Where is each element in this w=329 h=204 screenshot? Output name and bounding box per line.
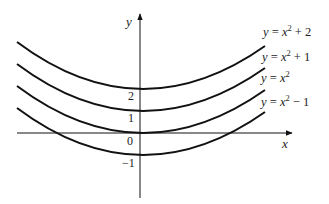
label-x2-plus-1: y = x2 + 1: [260, 48, 310, 64]
y-tick-1: 1: [128, 111, 134, 125]
curve-x2-plus-2: [17, 42, 265, 89]
y-tick-2: 2: [128, 89, 134, 103]
y-tick-0: 0: [127, 134, 133, 148]
parabola-family-diagram: y x 2 1 0 −1 y = x2 + 2 y = x2 + 1 y = x…: [0, 0, 329, 204]
label-x2-plus-2: y = x2 + 2: [261, 23, 311, 39]
x-axis-label: x: [281, 136, 288, 151]
y-tick-minus-1: −1: [122, 156, 135, 170]
curve-x2: [17, 86, 265, 133]
curve-x2-plus-1: [17, 64, 265, 111]
y-axis-label: y: [124, 14, 132, 29]
label-x2-minus-1: y = x2 − 1: [259, 93, 309, 109]
curve-x2-minus-1: [17, 108, 265, 155]
label-x2: y = x2: [259, 69, 290, 85]
